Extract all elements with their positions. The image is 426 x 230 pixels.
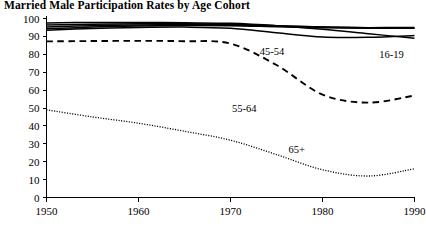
x-tick-label: 1950 <box>36 205 59 217</box>
series-line-55-64 <box>47 41 415 103</box>
y-tick-label: 50 <box>29 102 41 114</box>
y-tick-label: 70 <box>29 66 41 78</box>
series-line-65+ <box>47 110 415 176</box>
y-tick-label: 80 <box>29 48 41 60</box>
x-tick-label: 1990 <box>404 205 426 217</box>
x-axis-ticks: 19501960197019801990 <box>36 198 426 217</box>
series-label-55-64: 55-64 <box>232 103 257 114</box>
y-tick-label: 90 <box>29 30 41 42</box>
y-tick-label: 40 <box>29 120 41 132</box>
y-tick-label: 100 <box>23 13 40 25</box>
data-series-group <box>47 22 415 176</box>
y-tick-label: 20 <box>29 156 41 168</box>
x-tick-label: 1960 <box>128 205 151 217</box>
chart-container: Married Male Participation Rates by Age … <box>0 0 426 230</box>
series-label-65+: 65+ <box>289 144 306 155</box>
y-axis-ticks: 0102030405060708090100 <box>23 13 47 204</box>
y-tick-label: 0 <box>34 192 40 204</box>
series-label-group: 16-1945-5455-6465+ <box>232 46 404 155</box>
y-tick-label: 30 <box>29 138 41 150</box>
x-tick-label: 1980 <box>312 205 335 217</box>
chart-plot-area: 0102030405060708090100 19501960197019801… <box>0 0 426 230</box>
x-tick-label: 1970 <box>220 205 243 217</box>
y-tick-label: 60 <box>29 84 41 96</box>
series-label-16-19: 16-19 <box>379 49 404 60</box>
y-tick-label: 10 <box>29 174 41 186</box>
series-label-45-54: 45-54 <box>260 46 285 57</box>
